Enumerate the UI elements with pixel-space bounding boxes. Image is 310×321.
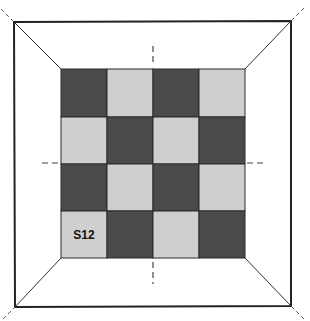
- grid-cell-dark: [61, 69, 107, 117]
- grid-cell-light: [153, 211, 199, 258]
- grid-cell-dark: [153, 164, 199, 211]
- grid-cell-dark: [153, 69, 199, 117]
- grid-cell-dark: [199, 211, 245, 258]
- grid-cell-light: [107, 164, 153, 211]
- grid-cell-dark: [107, 117, 153, 164]
- grid-cell-light: [107, 69, 153, 117]
- grid-cell-dark: [107, 211, 153, 258]
- grid-cell-light: [199, 164, 245, 211]
- grid-cell-dark: [199, 117, 245, 164]
- grid-cell-light: [153, 117, 199, 164]
- diagram-canvas: S12: [0, 0, 310, 321]
- diagram-svg: S12: [0, 0, 310, 321]
- cell-label: S12: [73, 228, 95, 242]
- grid-cell-light: [199, 69, 245, 117]
- grid-cell-light: [61, 117, 107, 164]
- grid-cell-dark: [61, 164, 107, 211]
- cell-labels: S12: [73, 228, 95, 242]
